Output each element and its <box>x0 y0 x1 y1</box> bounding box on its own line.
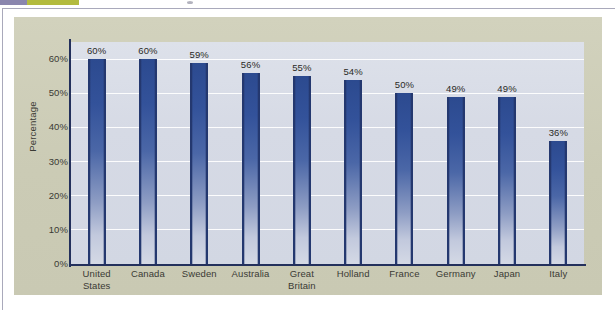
bar-slot: 49% <box>430 42 481 264</box>
x-tick-label: UnitedStates <box>71 268 122 291</box>
bar-slot: 60% <box>122 42 173 264</box>
bar[interactable] <box>88 59 106 264</box>
x-tick-label-line: States <box>71 280 122 292</box>
x-tick-label: GreatBritain <box>276 268 327 291</box>
x-tick-label-line: Britain <box>276 280 327 292</box>
bar-value-label: 54% <box>343 66 362 77</box>
x-tick-label: Italy <box>533 268 584 280</box>
bar[interactable] <box>344 80 362 264</box>
chart-figure-panel: 0%10%20%30%40%50%60% Percentage 60%60%59… <box>14 17 602 295</box>
bar[interactable] <box>395 93 413 264</box>
bar-slot: 56% <box>225 42 276 264</box>
x-tick-label: Holland <box>328 268 379 280</box>
page-left-border <box>2 8 3 310</box>
bar-slot: 60% <box>71 42 122 264</box>
x-axis-line <box>69 264 586 266</box>
y-tick-label: 0% <box>34 258 68 269</box>
bar[interactable] <box>549 141 567 264</box>
bar[interactable] <box>498 97 516 264</box>
bar-slot: 50% <box>379 42 430 264</box>
y-tick-label: 20% <box>34 190 68 201</box>
bar-value-label: 49% <box>497 83 516 94</box>
bar-slot: 49% <box>481 42 532 264</box>
bar-value-label: 56% <box>241 59 260 70</box>
bar-value-label: 49% <box>446 83 465 94</box>
x-tick-label-line: Germany <box>430 268 481 280</box>
bar-slot: 55% <box>276 42 327 264</box>
bar-value-label: 36% <box>549 127 568 138</box>
bar-value-label: 60% <box>87 45 106 56</box>
x-tick-label-line: Great <box>276 268 327 280</box>
bar-series: 60%60%59%56%55%54%50%49%49%36% <box>71 42 584 264</box>
strip-segment-purple <box>0 0 27 5</box>
y-tick-label: 30% <box>34 156 68 167</box>
bar-slot: 36% <box>533 42 584 264</box>
x-tick-label: Japan <box>481 268 532 280</box>
x-tick-label-line: Australia <box>225 268 276 280</box>
bar[interactable] <box>139 59 157 264</box>
x-tick-label: Canada <box>122 268 173 280</box>
x-tick-label-line: Japan <box>481 268 532 280</box>
bar-slot: 54% <box>328 42 379 264</box>
x-tick-label-line: Canada <box>122 268 173 280</box>
y-tick-label: 50% <box>34 87 68 98</box>
x-tick-label: Australia <box>225 268 276 280</box>
y-tick-label: 10% <box>34 224 68 235</box>
x-tick-label-line: France <box>379 268 430 280</box>
strip-segment-olive <box>27 0 79 5</box>
bar[interactable] <box>447 97 465 264</box>
bar-value-label: 50% <box>395 79 414 90</box>
page-horizontal-rule <box>3 8 615 9</box>
bar-slot: 59% <box>174 42 225 264</box>
y-tick-label: 60% <box>34 53 68 64</box>
bar-value-label: 60% <box>138 45 157 56</box>
bar[interactable] <box>242 73 260 264</box>
bar[interactable] <box>293 76 311 264</box>
strip-dot-marker <box>187 1 193 4</box>
x-tick-label: France <box>379 268 430 280</box>
x-tick-label-line: Sweden <box>174 268 225 280</box>
x-tick-label-line: Holland <box>328 268 379 280</box>
x-tick-label: Germany <box>430 268 481 280</box>
y-tick-label: 40% <box>34 121 68 132</box>
bar-value-label: 59% <box>190 49 209 60</box>
bar-value-label: 55% <box>292 62 311 73</box>
x-tick-label-line: Italy <box>533 268 584 280</box>
top-decorative-strip <box>0 0 615 5</box>
x-tick-label: Sweden <box>174 268 225 280</box>
x-axis-ticks: UnitedStatesCanadaSwedenAustraliaGreatBr… <box>71 268 584 295</box>
bar[interactable] <box>190 63 208 265</box>
y-axis-title: Percentage <box>27 82 38 172</box>
x-tick-label-line: United <box>71 268 122 280</box>
